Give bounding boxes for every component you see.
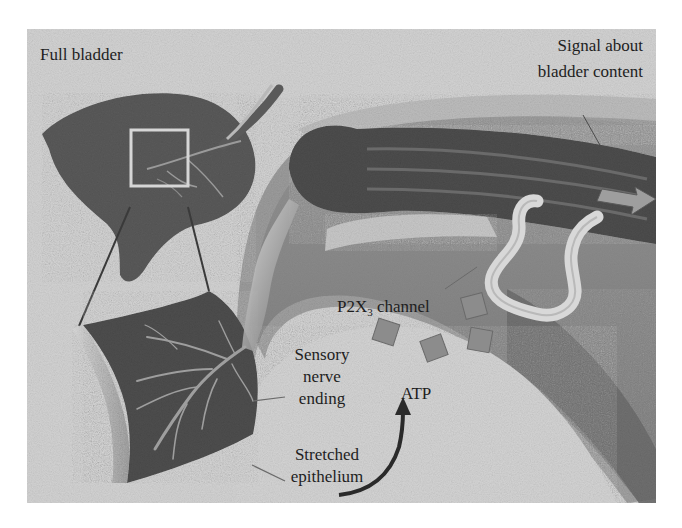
label-signal-line1: Signal about (525, 36, 643, 55)
diagram-illustration (27, 29, 656, 503)
label-sensory-line3: ending (282, 389, 362, 408)
label-full-bladder: Full bladder (40, 45, 123, 64)
label-atp: ATP (401, 384, 431, 403)
label-sensory-line1: Sensory (282, 345, 362, 364)
label-signal-line2: bladder content (503, 62, 643, 81)
nerve-bundle-arc (237, 95, 656, 503)
label-p2x3-channel: P2X3 channel (337, 297, 430, 318)
p2x3-suffix: channel (373, 297, 430, 316)
p2x3-subscript: 3 (367, 306, 373, 318)
label-sensory-line2: nerve (282, 367, 362, 386)
label-stretched-line2: epithelium (277, 467, 377, 486)
label-stretched-line1: Stretched (277, 445, 377, 464)
diagram-frame: Full bladder Signal about bladder conten… (27, 29, 656, 503)
p2x3-prefix: P2X (337, 297, 367, 316)
